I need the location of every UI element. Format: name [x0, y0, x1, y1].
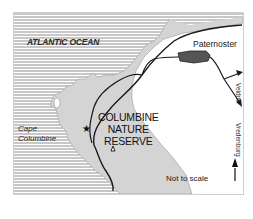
label-cape-line2: Columbine	[18, 134, 56, 144]
paternoster-town	[178, 51, 210, 63]
label-road-vredenburg: Vredenburg	[235, 123, 242, 157]
label-atlantic-ocean: ATLANTIC OCEAN	[27, 38, 99, 47]
label-reserve-line2: NATURE	[98, 123, 159, 135]
map-frame: ★ ATLANTIC OCEAN Paternoster Cape Columb…	[13, 12, 244, 195]
label-cape-line1: Cape	[18, 124, 56, 134]
island	[54, 98, 60, 108]
star-icon: ★	[82, 123, 91, 134]
label-reserve-line3: RESERVE	[98, 135, 159, 147]
north-arrow-icon	[232, 158, 238, 167]
label-columbine-nature-reserve: COLUMBINE NATURE RESERVE	[98, 111, 159, 147]
label-reserve-line1: COLUMBINE	[98, 111, 159, 123]
label-paternoster: Paternoster	[193, 40, 237, 49]
arrow-veldrif-icon	[236, 70, 243, 76]
label-cape-columbine: Cape Columbine	[18, 124, 56, 144]
label-road-veldrif: Veldrif	[235, 83, 242, 101]
label-not-to-scale: Not to scale	[166, 175, 208, 183]
